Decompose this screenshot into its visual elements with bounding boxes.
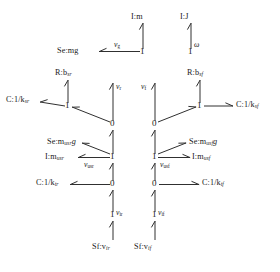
- bond-1sr-to-0r: [72, 107, 110, 122]
- bond-label-v-usr: vusr: [84, 161, 94, 169]
- element-C-ktf: C:1/ktf: [202, 179, 224, 188]
- bond-label-v-usf: vusf: [160, 161, 170, 169]
- bond-C-ksf: [204, 103, 233, 106]
- junction-zero-rear-upper: 0: [110, 119, 115, 128]
- junction-one-body-vertical: 1: [140, 47, 145, 56]
- junction-one-unsprung-rear: 1: [110, 152, 115, 161]
- bond-0f-to-1sf: [158, 106, 196, 122]
- bond-Sf-vif: [151, 221, 155, 240]
- bond-label-v-if: vif: [158, 209, 165, 217]
- element-Se-mg: Se:mg: [57, 47, 78, 55]
- element-Se-musr-g: Se:musrg: [47, 138, 76, 147]
- element-I-m: I:m: [131, 13, 143, 21]
- junction-one-susp-front: 1: [197, 101, 202, 110]
- element-C-ksr: C:1/ksr: [6, 96, 29, 105]
- bond-v-r: [109, 83, 113, 121]
- element-I-J: I:J: [180, 13, 189, 21]
- bond-I-musf: [158, 154, 190, 157]
- bond-Se-musrg: [82, 143, 110, 154]
- junction-zero-rear-lower: 0: [110, 179, 115, 188]
- junction-one-unsprung-front: 1: [152, 152, 157, 161]
- element-I-musr: I:musr: [45, 153, 64, 162]
- bond-Se-musfg: [158, 143, 186, 154]
- junction-one-susp-rear: 1: [65, 101, 70, 110]
- element-C-ktr: C:1/ktr: [36, 179, 59, 188]
- bond-C-ktr: [70, 181, 110, 184]
- bond-I-musr: [78, 154, 110, 157]
- bond-label-v-g: vg: [114, 41, 120, 49]
- bond-label-v-r: vr: [116, 83, 121, 91]
- junction-one-input-rear: 1: [110, 210, 115, 219]
- junction-one-body-rotation: 1: [188, 47, 193, 56]
- bond-v-f: [151, 83, 155, 121]
- element-R-bsf: R:bsf: [187, 69, 203, 78]
- bond-label-v-f: vf: [141, 83, 146, 91]
- junction-zero-front-upper: 0: [152, 119, 157, 128]
- bond-graph-canvas: .bond{stroke:#303030;stroke-width:1;fill…: [0, 0, 280, 272]
- bond-C-ksr: [40, 100, 65, 106]
- junction-one-input-front: 1: [152, 210, 157, 219]
- bond-label-omega: ω: [194, 41, 199, 49]
- bond-Sf-vir: [109, 221, 113, 240]
- element-I-musf: I:musf: [192, 153, 210, 162]
- element-Sf-vir: Sf:vir: [92, 243, 110, 252]
- bond-label-v-ir: vir: [116, 209, 123, 217]
- element-Se-musf-g: Se:musfg: [189, 138, 217, 147]
- bond-C-ktf: [159, 181, 199, 184]
- element-Sf-vif: Sf:vif: [134, 243, 151, 252]
- element-C-ksf: C:1/ksf: [236, 101, 259, 110]
- element-R-bsr: R:bsr: [55, 69, 72, 78]
- junction-zero-front-lower: 0: [152, 179, 157, 188]
